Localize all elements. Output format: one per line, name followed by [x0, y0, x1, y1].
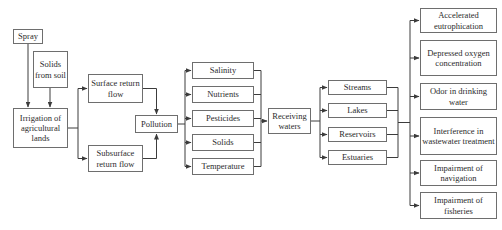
node-surface-return-flow: Surface return flow [88, 74, 143, 103]
node-solids: Solids [192, 134, 254, 151]
node-receiving-waters: Receiving waters [268, 108, 311, 134]
node-irrigation-of-agricultural-lands: Irrigation of agricultural lands [13, 108, 68, 148]
node-interference-in-wastewater-treatment: Interference in wastewater treatment [420, 117, 497, 155]
flowchart: Spray Solids from soil Irrigation of agr… [0, 0, 502, 230]
node-nutrients: Nutrients [192, 86, 254, 103]
node-streams: Streams [328, 80, 387, 95]
node-estuaries: Estuaries [328, 150, 387, 165]
node-pesticides: Pesticides [192, 110, 254, 127]
node-salinity: Salinity [192, 62, 254, 79]
node-impairment-of-navigation: Impairment of navigation [420, 160, 497, 186]
node-reservoirs: Reservoirs [328, 127, 387, 142]
node-lakes: Lakes [328, 103, 387, 118]
node-spray: Spray [13, 29, 43, 44]
node-temperature: Temperature [192, 158, 254, 175]
node-accelerated-eutrophication: Accelerated eutrophication [420, 8, 497, 33]
node-impairment-of-fisheries: Impairment of fisheries [420, 192, 497, 219]
node-odor-in-drinking-water: Odor in drinking water [420, 83, 497, 110]
node-depressed-oxygen-concentration: Depressed oxygen concentration [420, 40, 497, 76]
node-solids-from-soil: Solids from soil [33, 51, 68, 88]
node-subsurface-return-flow: Subsurface return flow [88, 145, 143, 172]
node-pollution: Pollution [135, 115, 178, 133]
